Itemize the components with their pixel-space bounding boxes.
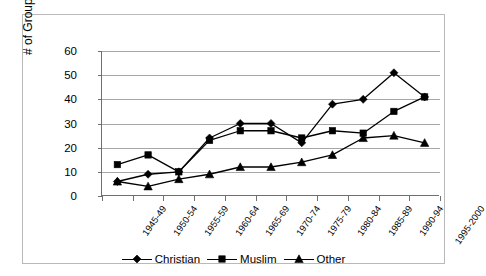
data-point-marker xyxy=(114,161,120,167)
y-axis-tick-label: 20 xyxy=(51,143,77,153)
x-axis-tick-label: 1980-84 xyxy=(356,204,384,238)
data-point-marker xyxy=(176,169,182,175)
x-axis-tick xyxy=(163,196,164,201)
y-axis-tick-label: 40 xyxy=(51,94,77,104)
data-point-marker xyxy=(421,94,427,100)
x-axis-tick xyxy=(225,196,226,201)
legend-label: Other xyxy=(317,253,346,265)
x-axis-tick xyxy=(133,196,134,201)
x-axis-tick-label: 1965-69 xyxy=(264,204,292,238)
series-line xyxy=(117,97,424,172)
series-plot xyxy=(102,51,440,196)
y-axis-title: # of Groups Rebelling xyxy=(21,0,35,55)
y-axis-tick-label: 10 xyxy=(51,167,77,177)
x-axis-tick-label: 1950-54 xyxy=(172,204,200,238)
x-axis-tick xyxy=(348,196,349,201)
x-axis-tick xyxy=(286,196,287,201)
x-axis-tick-label: 1955-59 xyxy=(202,204,230,238)
legend-label: Muslim xyxy=(240,253,276,265)
plot-area xyxy=(101,51,439,196)
square-marker-icon xyxy=(207,254,237,264)
x-axis-tick xyxy=(194,196,195,201)
x-axis-tick-label: 1990-94 xyxy=(417,204,445,238)
chart-frame: # of Groups Rebelling 0102030405060 1945… xyxy=(22,14,445,264)
data-point-marker xyxy=(237,128,243,134)
legend-item-muslim[interactable]: Muslim xyxy=(207,253,276,265)
data-point-marker xyxy=(391,108,397,114)
x-axis-tick xyxy=(440,196,441,201)
x-axis-tick xyxy=(379,196,380,201)
x-axis-tick xyxy=(256,196,257,201)
legend-item-christian[interactable]: Christian xyxy=(122,253,200,265)
x-axis-tick xyxy=(409,196,410,201)
y-axis-tick-label: 30 xyxy=(51,119,77,129)
x-axis-tick-label: 1970-74 xyxy=(295,204,323,238)
data-point-marker xyxy=(145,152,151,158)
x-axis-tick-label: 1960-64 xyxy=(233,204,261,238)
data-point-marker xyxy=(236,120,244,128)
data-point-marker xyxy=(328,151,336,159)
y-axis-tick-label: 60 xyxy=(51,46,77,56)
y-axis-tick-label: 50 xyxy=(51,70,77,80)
data-point-marker xyxy=(299,135,305,141)
legend-item-other[interactable]: Other xyxy=(284,253,346,265)
triangle-marker-icon xyxy=(284,254,314,264)
data-point-marker xyxy=(267,120,275,128)
chart-legend: ChristianMuslimOther xyxy=(23,253,444,265)
x-axis-tick-label: 1975-79 xyxy=(325,204,353,238)
legend-label: Christian xyxy=(155,253,200,265)
y-axis-tick-label: 0 xyxy=(51,191,77,201)
x-axis-tick-label: 1995-2000 xyxy=(453,204,486,246)
series-line xyxy=(117,136,424,187)
data-point-marker xyxy=(268,128,274,134)
data-point-marker xyxy=(206,137,212,143)
data-point-marker xyxy=(144,170,152,178)
data-point-marker xyxy=(329,128,335,134)
x-axis-tick-label: 1945-49 xyxy=(141,204,169,238)
diamond-marker-icon xyxy=(122,254,152,264)
series-other xyxy=(113,131,429,190)
x-axis-tick xyxy=(102,196,103,201)
x-axis-tick-label: 1985-89 xyxy=(387,204,415,238)
x-axis-tick xyxy=(317,196,318,201)
